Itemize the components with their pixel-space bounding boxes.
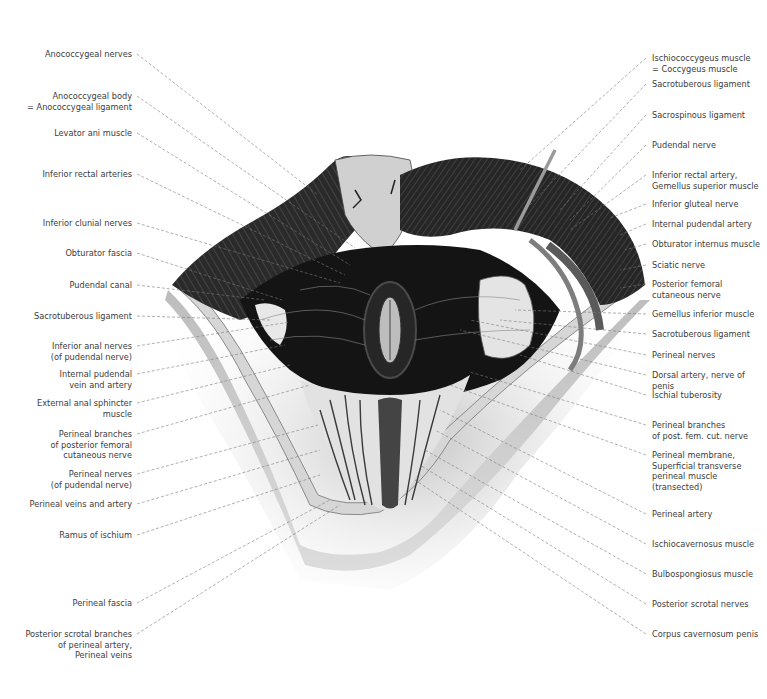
label-left-internal-pudendal: Internal pudendal vein and artery: [60, 369, 132, 390]
bulbospongiosus: [378, 398, 402, 509]
label-right-sciatic-nerve: Sciatic nerve: [652, 260, 705, 271]
leader-line: [520, 58, 646, 170]
label-right-posterior-femoral: Posterior femoral cutaneous nerve: [652, 279, 722, 300]
label-right-posterior-scrotal-nerves: Posterior scrotal nerves: [652, 599, 749, 610]
label-right-gemellus-inferior-muscle: Gemellus inferior muscle: [652, 309, 754, 320]
obturator-internus-right: [478, 276, 534, 358]
leader-line: [610, 204, 646, 218]
label-left-perineal-branches: Perineal branches of posterior femoral c…: [51, 429, 132, 461]
leader-line: [137, 54, 318, 195]
label-right-inferior-gluteal-nerve: Inferior gluteal nerve: [652, 199, 738, 210]
label-left-anococcygeal-nerves: Anococcygeal nerves: [45, 49, 132, 60]
label-right-ischiocavernosus-muscle: Ischiocavernosus muscle: [652, 539, 754, 550]
label-left-inferior-anal-nerves: Inferior anal nerves (of pudendal nerve): [51, 341, 132, 362]
label-right-ischial-tuberosity: Ischial tuberosity: [652, 390, 722, 401]
label-left-anococcygeal-body: Anococcygeal body = Anococcygeal ligamen…: [27, 91, 132, 112]
label-right-pudendal-nerve: Pudendal nerve: [652, 140, 716, 151]
label-right-obturator-internus-muscle: Obturator internus muscle: [652, 239, 760, 250]
label-left-external-anal-sphincter: External anal sphincter muscle: [37, 398, 132, 419]
label-left-ramus-of-ischium: Ramus of ischium: [59, 530, 132, 541]
label-left-pudendal-canal: Pudendal canal: [70, 280, 133, 291]
label-left-inferior-clunial-nerves: Inferior clunial nerves: [43, 218, 132, 229]
label-left-levator-ani-muscle: Levator ani muscle: [54, 128, 132, 139]
label-right-inferior-rectal-artery: Inferior rectal artery, Gemellus superio…: [652, 170, 759, 191]
label-right-bulbospongiosus-muscle: Bulbospongiosus muscle: [652, 569, 753, 580]
label-left-sacrotuberous-ligament: Sacrotuberous ligament: [34, 311, 132, 322]
label-right-sacrospinous-ligament: Sacrospinous ligament: [652, 110, 745, 121]
label-right-ischiococcygeus-muscle: Ischiococcygeus muscle = Coccygeus muscl…: [652, 53, 751, 74]
label-right-sacrotuberous-ligament: Sacrotuberous ligament: [652, 329, 750, 340]
label-right-internal-pudendal-artery: Internal pudendal artery: [652, 219, 752, 230]
label-left-obturator-fascia: Obturator fascia: [65, 248, 132, 259]
label-right-perineal-nerves: Perineal nerves: [652, 350, 715, 361]
label-right-perineal-branches: Perineal branches of post. fem. cut. ner…: [652, 420, 748, 441]
label-left-posterior-scrotal-branches: Posterior scrotal branches of perineal a…: [25, 629, 132, 661]
label-right-dorsal-artery-nerve-of-penis: Dorsal artery, nerve of penis: [652, 370, 767, 391]
leader-line: [530, 84, 646, 205]
label-left-perineal-fascia: Perineal fascia: [73, 598, 132, 609]
label-right-sacrotuberous-ligament: Sacrotuberous ligament: [652, 79, 750, 90]
leader-line: [415, 480, 646, 634]
label-right-corpus-cavernosum-penis: Corpus cavernosum penis: [652, 629, 758, 640]
label-right-perineal-artery: Perineal artery: [652, 509, 712, 520]
label-left-perineal-nerves: Perineal nerves (of pudendal nerve): [51, 469, 132, 490]
label-left-inferior-rectal-arteries: Inferior rectal arteries: [42, 169, 132, 180]
label-left-perineal-veins-and-artery: Perineal veins and artery: [29, 499, 132, 510]
label-right-perineal-membrane: Perineal membrane, Superficial transvers…: [652, 450, 741, 492]
